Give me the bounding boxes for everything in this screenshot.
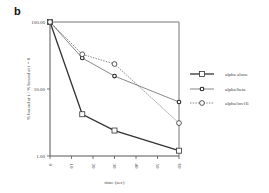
x-tick-label: 20 — [91, 164, 96, 170]
legend-label: alpha alone — [225, 72, 249, 77]
x-tick-label: 60 — [177, 164, 182, 170]
circle-marker — [80, 52, 85, 57]
circle-marker — [177, 121, 182, 126]
x-tick-label: 10 — [69, 164, 74, 170]
x-tick-label: 30 — [112, 164, 117, 170]
square-marker — [177, 148, 182, 153]
x-tick-label: 0 — [48, 164, 53, 167]
series-line — [50, 22, 179, 123]
square-marker — [112, 128, 117, 133]
y-axis-label: % bound at t / % bound at t = 0 — [26, 57, 31, 120]
x-tick-label: 50 — [155, 164, 160, 170]
y-tick-label: 1.00 — [36, 154, 45, 159]
chart: 1.0010.00100.000102030405060time (sec)% … — [0, 0, 269, 193]
y-tick-label: 10.00 — [34, 87, 46, 92]
square-marker — [80, 112, 85, 117]
x-axis-label: time (sec) — [105, 180, 125, 185]
legend-item: alpha/beta — [190, 87, 246, 92]
diamond-marker — [200, 87, 204, 91]
circle-marker — [200, 101, 205, 106]
legend-label: alpha/beta — [225, 87, 246, 92]
square-marker — [200, 72, 205, 77]
legend-item: alpha/inv16 — [190, 101, 249, 106]
circle-marker — [48, 20, 53, 25]
legend-label: alpha/inv16 — [225, 101, 249, 106]
y-tick-label: 100.00 — [31, 20, 45, 25]
diamond-marker — [113, 74, 117, 78]
x-tick-label: 40 — [134, 164, 139, 170]
circle-marker — [112, 62, 117, 67]
legend-item: alpha alone — [190, 72, 249, 77]
diamond-marker — [177, 100, 181, 104]
